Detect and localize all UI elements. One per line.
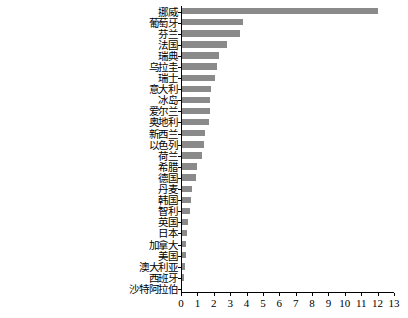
bar-row: 冰岛 [181,95,394,106]
x-axis-tick [279,293,280,296]
bar-row: 韩国 [181,195,394,206]
x-axis-tick-label: 11 [356,297,367,310]
x-axis-tick [378,293,379,296]
bar [181,119,209,125]
bar-row: 瑞士 [181,73,394,84]
x-axis-tick [214,293,215,296]
bar [181,19,243,25]
x-axis-tick-label: 0 [178,297,184,310]
bar-row: 德国 [181,172,394,183]
bar-row: 西班牙 [181,272,394,283]
bar-row: 以色列 [181,139,394,150]
x-axis-tick [328,293,329,296]
x-axis-tick [197,293,198,296]
x-axis-tick [263,293,264,296]
bar-chart: 挪威葡萄牙芬兰法国瑞典乌拉圭瑞士意大利冰岛爱尔兰奥地利新西兰以色列荷兰希腊德国丹… [0,0,408,318]
x-axis-tick-label: 7 [293,297,299,310]
x-axis-tick [247,293,248,296]
x-axis-tick-label: 1 [195,297,201,310]
bar-row: 美国 [181,250,394,261]
bar [181,108,210,114]
x-axis-tick-label: 2 [211,297,217,310]
bar-row: 爱尔兰 [181,106,394,117]
bar [181,163,197,169]
x-axis-tick-label: 10 [339,297,350,310]
x-axis-tick [181,293,182,296]
x-axis-tick-label: 6 [277,297,283,310]
x-axis-tick [394,293,395,296]
x-axis-tick [312,293,313,296]
x-axis-tick-label: 3 [227,297,233,310]
bar [181,97,210,103]
bar [181,52,219,58]
bar [181,86,211,92]
plot-area: 挪威葡萄牙芬兰法国瑞典乌拉圭瑞士意大利冰岛爱尔兰奥地利新西兰以色列荷兰希腊德国丹… [181,6,394,292]
bar [181,174,196,180]
bar-row: 意大利 [181,84,394,95]
x-axis-tick [296,293,297,296]
bar-row: 乌拉圭 [181,61,394,72]
bar-row: 瑞典 [181,50,394,61]
bar [181,75,215,81]
x-axis-tick [345,293,346,296]
bar-row: 丹麦 [181,184,394,195]
x-axis-tick-label: 13 [389,297,400,310]
category-label: 沙特阿拉伯 [129,283,178,294]
bar-row: 荷兰 [181,150,394,161]
x-axis-tick [361,293,362,296]
y-axis-line [181,6,182,293]
x-axis-tick-label: 12 [372,297,383,310]
bar-row: 新西兰 [181,128,394,139]
bar [181,197,191,203]
bar-row: 奥地利 [181,117,394,128]
bar [181,141,204,147]
bar [181,208,190,214]
bar [181,186,192,192]
bar-row: 葡萄牙 [181,17,394,28]
bar [181,63,217,69]
x-axis-tick-label: 9 [326,297,332,310]
bar-row: 法国 [181,39,394,50]
bar [181,41,227,47]
bar-row: 英国 [181,217,394,228]
x-axis-tick-label: 4 [244,297,250,310]
bar-row: 芬兰 [181,28,394,39]
bar [181,152,202,158]
bar-row: 加拿大 [181,239,394,250]
bar-row: 挪威 [181,6,394,17]
bar-row: 智利 [181,206,394,217]
bar [181,30,240,36]
x-axis-tick-label: 8 [309,297,315,310]
bar-row: 日本 [181,228,394,239]
x-axis-tick-label: 5 [260,297,266,310]
bar-row: 希腊 [181,161,394,172]
bar [181,130,205,136]
bar-row: 澳大利亚 [181,261,394,272]
bar [181,8,378,14]
bar [181,219,188,225]
x-axis-tick [230,293,231,296]
